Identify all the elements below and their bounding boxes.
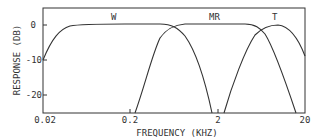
xtick-0.2: 0.2 (122, 115, 138, 125)
ytick-0: 0 (31, 20, 36, 30)
series-w-curve (43, 24, 212, 113)
ytick-minus20: -20 (26, 90, 42, 100)
ytick-minus10: -10 (26, 55, 42, 65)
series-mr-curve (135, 24, 296, 113)
plot-frame (43, 8, 305, 113)
xtick-20: 20 (300, 115, 311, 125)
series-t-curve (224, 25, 305, 113)
x-axis-label: FREQUENCY (KHZ) (136, 128, 217, 138)
label-mr: MR (209, 12, 220, 22)
y-axis-label: RESPONSE (DB) (12, 25, 22, 95)
label-w: W (111, 12, 117, 22)
label-t: T (272, 12, 278, 22)
frequency-response-chart: W MR T 0 -10 -20 0.02 0.2 2 20 FREQUENCY… (0, 0, 317, 140)
xtick-2: 2 (215, 115, 220, 125)
xtick-0.02: 0.02 (34, 115, 56, 125)
